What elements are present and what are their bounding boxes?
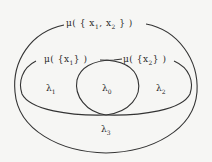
right-set-label: μ( {x2} ) [123,54,166,66]
region-lambda1: λ1 [46,83,56,95]
left-set-label: μ( {x1} ) [44,54,87,66]
region-lambda2: λ2 [156,83,166,95]
venn-diagram: μ( { x1, x2 } ) μ( {x1} ) μ( {x2} ) λ1 λ… [0,0,212,162]
outer-set-label: μ( { x1, x2 } ) [66,18,133,30]
left-set-curve [21,60,139,115]
region-lambda0: λ0 [102,83,112,95]
region-lambda3: λ3 [101,124,111,136]
right-set-curve [77,59,192,115]
